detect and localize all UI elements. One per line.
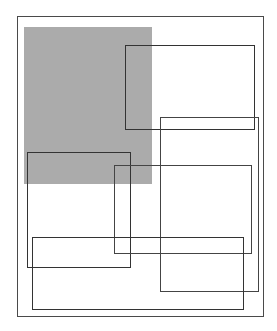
diagram-canvas — [0, 0, 277, 331]
rectangle-bottom-wide — [32, 237, 244, 310]
